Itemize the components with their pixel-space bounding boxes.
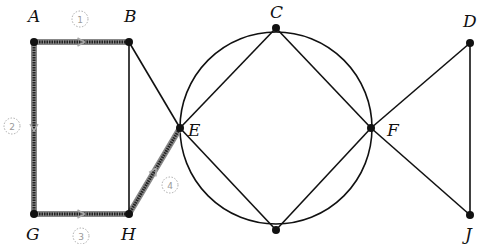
node-label-G: G: [26, 224, 40, 244]
edge-FD: [371, 43, 470, 128]
step-number-4: 4: [167, 181, 173, 191]
edge-BE: [129, 42, 180, 128]
node-G: [30, 210, 38, 218]
node-D: [466, 39, 474, 47]
nodes: [30, 24, 474, 234]
node-label-B: B: [123, 6, 137, 26]
node-J: [466, 211, 474, 219]
edge-FJ: [371, 128, 470, 215]
node-C: [272, 24, 280, 32]
node-F: [367, 124, 375, 132]
node-I: [272, 226, 280, 234]
edges: [30, 28, 470, 230]
node-B: [125, 38, 133, 46]
node-E: [176, 124, 184, 132]
graph-diagram: 1234 ABCDEFGHJ: [0, 0, 483, 244]
node-label-D: D: [462, 11, 477, 31]
path-step-markers: 1234: [4, 11, 178, 244]
node-H: [125, 210, 133, 218]
node-label-A: A: [26, 6, 40, 26]
node-label-F: F: [386, 120, 400, 140]
circle-outline: [180, 32, 372, 224]
diagram-canvas: 1234 ABCDEFGHJ: [0, 0, 483, 244]
step-number-3: 3: [78, 232, 84, 242]
step-number-2: 2: [9, 122, 15, 132]
edge-highlight-HE: [129, 128, 180, 214]
edge-CF: [276, 28, 371, 128]
node-A: [30, 38, 38, 46]
node-label-C: C: [270, 2, 283, 22]
node-labels: ABCDEFGHJ: [26, 2, 477, 244]
node-label-J: J: [462, 224, 473, 244]
step-number-1: 1: [77, 15, 83, 25]
node-label-E: E: [187, 120, 201, 140]
node-label-H: H: [120, 224, 137, 244]
